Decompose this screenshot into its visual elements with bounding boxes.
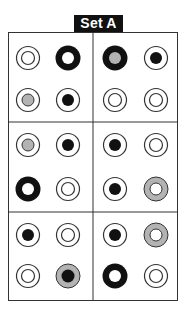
circle-plain-icon — [145, 265, 168, 288]
circle-thick-black-icon — [56, 46, 81, 71]
circle-dot-icon — [57, 89, 80, 112]
circle-dot-icon — [57, 134, 80, 157]
circle-thick-black-icon — [103, 264, 128, 289]
circle-thick-gray-dot-icon — [56, 264, 80, 288]
circle-grid — [0, 0, 185, 316]
circle-plain-icon — [57, 224, 80, 247]
circle-dot-icon — [145, 47, 168, 70]
circle-plain-icon — [17, 265, 40, 288]
circle-dot-icon — [104, 134, 127, 157]
circle-dot-icon — [104, 178, 127, 201]
circle-plain-icon — [104, 89, 127, 112]
circle-plain-icon — [145, 134, 168, 157]
circle-plain-icon — [17, 47, 40, 70]
circle-dot-icon — [17, 224, 40, 247]
circle-thick-black-gray-icon — [103, 46, 128, 71]
circle-plain-icon — [145, 89, 168, 112]
circle-thick-black-icon — [16, 177, 41, 202]
circle-gray-dot-icon — [17, 89, 40, 112]
circle-gray-dot-icon — [17, 134, 40, 157]
circle-thick-gray-icon — [144, 177, 168, 201]
circle-dot-icon — [104, 224, 127, 247]
circle-plain-icon — [57, 178, 80, 201]
circle-thick-gray-icon — [144, 223, 168, 247]
